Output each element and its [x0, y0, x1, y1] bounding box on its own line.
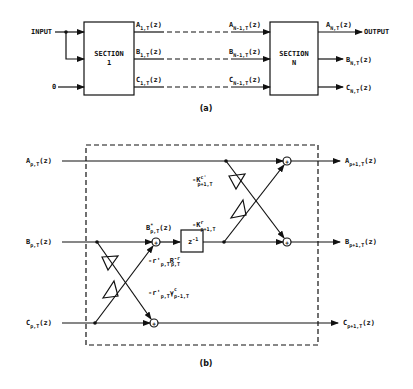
output-label: OUTPUT [364, 28, 389, 36]
figure-a: INPUT 0 SECTION 1 A1,T(z) B1,T(z) C1,T(z… [31, 21, 389, 113]
label-bn1: BN-1,T(z) [229, 48, 261, 58]
label-gain-kc: -Kc'p+1,T [192, 174, 213, 188]
plus-symbol: + [152, 320, 156, 327]
label-cp1: Cp+1,T(z) [343, 319, 375, 330]
label-cp: Cp,T(z) [26, 319, 52, 330]
plus-symbol: + [154, 239, 158, 246]
label-gain-rY: -r'p,Tγcp-1,T [148, 286, 189, 300]
label-b1: B1,T(z) [136, 48, 162, 58]
delay-label: z-1 [188, 236, 198, 246]
section-1-number: 1 [107, 59, 111, 67]
section-1-title: SECTION [94, 50, 124, 58]
label-bn: BN,T(z) [346, 56, 372, 66]
section-n-letter: N [292, 59, 296, 67]
caption-b: (b) [199, 359, 212, 368]
b-to-c-path [97, 242, 151, 319]
label-an1: AN-1,T(z) [229, 21, 261, 31]
gain-triangle-right-bottom [231, 200, 246, 218]
section-n-title: SECTION [279, 50, 309, 58]
caption-a: (a) [200, 104, 213, 113]
label-gain-kr: -Krp+1,T [192, 219, 216, 233]
label-c1: C1,T(z) [136, 76, 162, 86]
lattice-filter-diagram: INPUT 0 SECTION 1 A1,T(z) B1,T(z) C1,T(z… [0, 0, 413, 389]
plus-symbol: + [285, 158, 289, 165]
label-cn: CN,T(z) [346, 84, 372, 94]
label-gain-rR: -r'p,TR-rp,T [148, 255, 180, 268]
figure-b: Ap,T(z) + Ap+1,T(z) Bp,T(z) + B*p,T(z) z… [26, 145, 377, 368]
label-cn1: CN-1,T(z) [229, 76, 261, 86]
label-bp1: Bp+1,T(z) [345, 238, 377, 249]
zero-label: 0 [52, 83, 56, 91]
label-a1: A1,T(z) [136, 21, 162, 31]
label-bstar: B*p,T(z) [146, 222, 172, 235]
label-ap: Ap,T(z) [26, 157, 52, 168]
label-bp: Bp,T(z) [26, 238, 52, 249]
label-ap1: Ap+1,T(z) [345, 157, 377, 168]
plus-symbol: + [285, 239, 289, 246]
b-to-a-path [224, 165, 284, 242]
a-to-b-path [226, 161, 284, 238]
label-an: AN,T(z) [326, 21, 352, 31]
c-to-bstar-path [95, 246, 153, 323]
input-arrow-b [66, 32, 84, 59]
input-label: INPUT [31, 28, 52, 36]
